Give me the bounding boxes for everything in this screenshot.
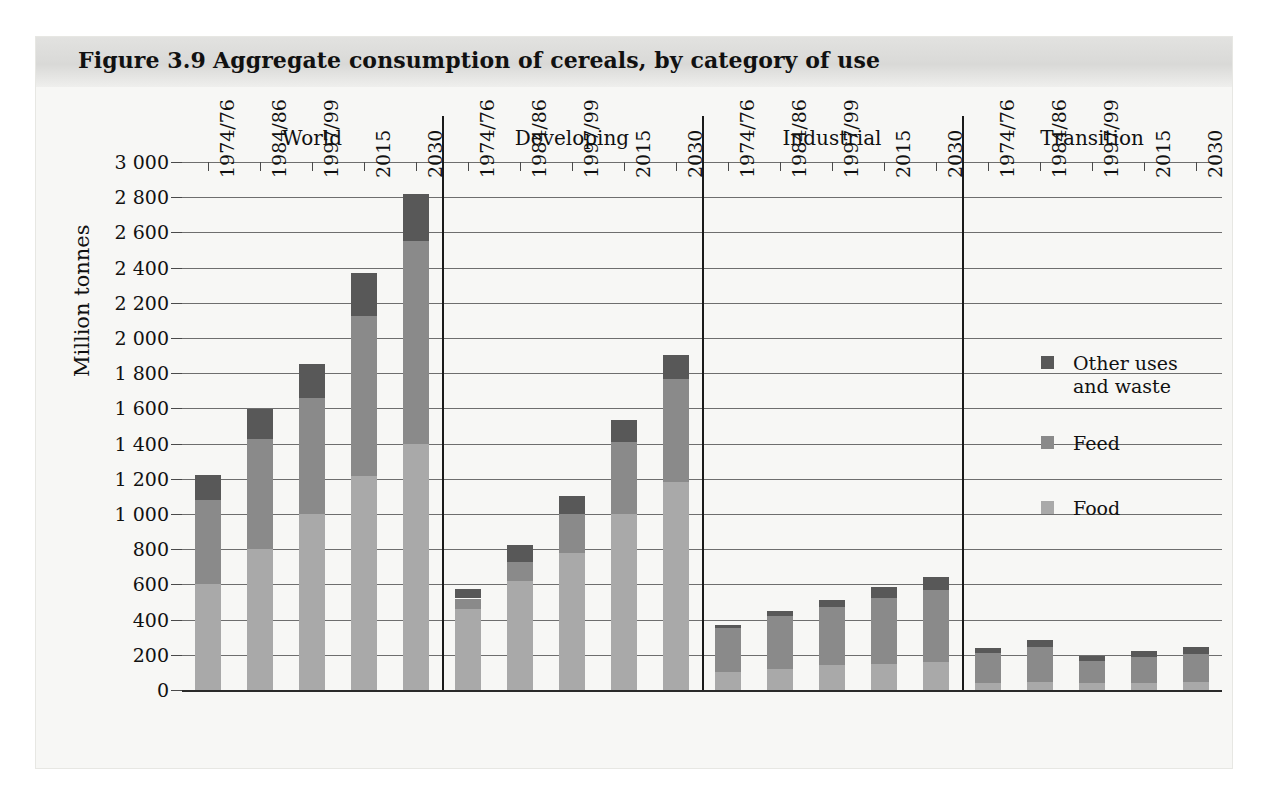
bar-segment-food <box>299 514 325 690</box>
x-tick-mark <box>728 162 729 171</box>
y-tick-label: 800 <box>49 538 169 560</box>
y-tick-mark <box>171 444 182 445</box>
y-tick-label: 400 <box>49 609 169 631</box>
x-tick-mark <box>208 162 209 171</box>
chart-legend: Other usesand waste Feed Food <box>1041 352 1216 546</box>
x-tick-label: 1974/76 <box>996 99 1018 178</box>
y-tick-label: 600 <box>49 573 169 595</box>
bar-segment-food <box>455 609 481 690</box>
bar-segment-food <box>507 581 533 690</box>
bar-segment-feed <box>1131 657 1157 683</box>
y-tick-label: 2 200 <box>49 292 169 314</box>
x-tick-mark <box>624 162 625 171</box>
bar <box>871 587 897 690</box>
x-tick-mark <box>1092 162 1093 171</box>
x-tick-label: 1984/86 <box>268 99 290 178</box>
x-tick-label: 1984/86 <box>788 99 810 178</box>
y-tick-mark <box>171 549 182 550</box>
group-divider <box>442 116 444 690</box>
figure-title-text: Aggregate consumption of cereals, by cat… <box>213 47 880 73</box>
bar <box>559 496 585 690</box>
x-tick-label: 1974/76 <box>476 99 498 178</box>
y-tick-mark <box>171 408 182 409</box>
bar-segment-feed <box>351 316 377 476</box>
bar <box>351 273 377 690</box>
y-tick-mark <box>171 584 182 585</box>
bar-segment-food <box>559 553 585 690</box>
bar-segment-feed <box>1079 661 1105 683</box>
x-tick-label: 1984/86 <box>528 99 550 178</box>
y-tick-mark <box>171 197 182 198</box>
x-tick-mark <box>780 162 781 171</box>
y-tick-label: 1 200 <box>49 468 169 490</box>
bar-segment-food <box>611 514 637 690</box>
group-divider <box>962 116 964 690</box>
y-tick-mark <box>171 479 182 480</box>
figure-card: Figure 3.9Aggregate consumption of cerea… <box>36 37 1232 768</box>
bar-segment-food <box>351 476 377 690</box>
gridline <box>182 690 1222 692</box>
y-tick-label: 2 000 <box>49 327 169 349</box>
bar-segment-other-uses-and-waste <box>715 625 741 628</box>
x-tick-mark <box>260 162 261 171</box>
bar-segment-feed <box>403 241 429 443</box>
legend-item-feed: Feed <box>1041 432 1216 455</box>
y-tick-label: 1 800 <box>49 362 169 384</box>
bar-segment-food <box>663 482 689 690</box>
x-tick-mark <box>988 162 989 171</box>
bar-segment-food <box>403 444 429 690</box>
bar-segment-food <box>1027 682 1053 690</box>
y-tick-mark <box>171 303 182 304</box>
y-tick-mark <box>171 514 182 515</box>
x-tick-label: 2030 <box>684 130 706 178</box>
bar-segment-feed <box>299 398 325 514</box>
x-tick-label: 1997/99 <box>580 99 602 178</box>
bar <box>1131 651 1157 690</box>
legend-item-food: Food <box>1041 497 1216 520</box>
y-tick-mark <box>171 655 182 656</box>
bar <box>247 409 273 690</box>
y-tick-mark <box>171 373 182 374</box>
bar-segment-food <box>1079 683 1105 690</box>
legend-label-food: Food <box>1073 497 1216 520</box>
bar <box>975 648 1001 690</box>
bar-segment-feed <box>715 628 741 672</box>
y-tick-label: 1 600 <box>49 397 169 419</box>
bar <box>403 194 429 690</box>
bar-segment-other-uses-and-waste <box>403 194 429 242</box>
y-tick-label: 200 <box>49 644 169 666</box>
bar <box>507 545 533 690</box>
legend-swatch-food-icon <box>1041 501 1054 514</box>
figure-title: Figure 3.9Aggregate consumption of cerea… <box>78 47 880 73</box>
bar <box>715 625 741 690</box>
bar-segment-other-uses-and-waste <box>611 420 637 442</box>
bar-segment-feed <box>611 442 637 514</box>
y-tick-mark <box>171 338 182 339</box>
bar-segment-other-uses-and-waste <box>975 648 1001 653</box>
legend-label-feed: Feed <box>1073 432 1216 455</box>
y-tick-mark <box>171 268 182 269</box>
x-tick-label: 2015 <box>632 130 654 178</box>
x-tick-mark <box>936 162 937 171</box>
x-tick-label: 1974/76 <box>216 99 238 178</box>
bar-segment-food <box>767 669 793 690</box>
y-tick-mark <box>171 620 182 621</box>
bar-segment-food <box>195 584 221 690</box>
group-divider <box>702 116 704 690</box>
x-tick-label: 1997/99 <box>840 99 862 178</box>
legend-label-other: Other usesand waste <box>1073 352 1216 398</box>
x-tick-mark <box>364 162 365 171</box>
bar-segment-feed <box>1027 647 1053 682</box>
x-tick-label: 2030 <box>944 130 966 178</box>
y-tick-label: 2 800 <box>49 186 169 208</box>
bar <box>195 475 221 690</box>
y-tick-mark <box>171 690 182 691</box>
x-tick-mark <box>1196 162 1197 171</box>
bar-segment-other-uses-and-waste <box>1079 656 1105 661</box>
bar <box>299 364 325 690</box>
bar-segment-other-uses-and-waste <box>923 577 949 589</box>
y-tick-mark <box>171 162 182 163</box>
bar-segment-other-uses-and-waste <box>351 273 377 316</box>
x-tick-label: 1997/99 <box>1100 99 1122 178</box>
y-tick-mark <box>171 232 182 233</box>
